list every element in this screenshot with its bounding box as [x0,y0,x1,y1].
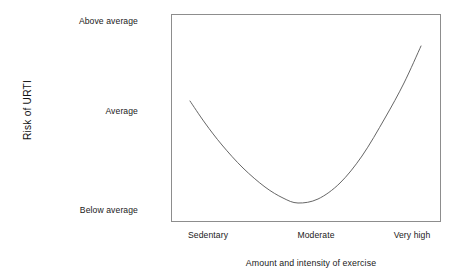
x-axis-title: Amount and intensity of exercise [246,258,376,268]
y-tick-label-below-average: Below average [80,205,138,215]
y-tick-label-above-average: Above average [79,16,138,26]
plot-area-frame [171,14,441,222]
x-tick-label-moderate: Moderate [297,230,334,240]
x-tick-label-very-high: Very high [394,230,431,240]
x-tick-label-sedentary: Sedentary [188,230,228,240]
y-tick-label-average: Average [105,106,138,116]
chart-figure: Risk of URTI Above average Average Below… [0,0,464,279]
y-axis-title: Risk of URTI [22,80,33,140]
